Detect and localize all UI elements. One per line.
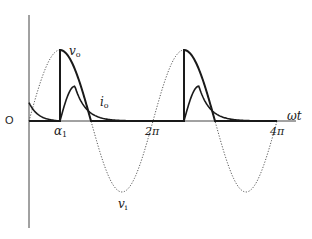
- tick-alpha1-label: α1: [54, 125, 67, 139]
- origin-label: O: [5, 115, 14, 126]
- io-label: io: [100, 96, 109, 110]
- vo-label: vo: [69, 45, 81, 59]
- output-current-curve: [29, 86, 277, 121]
- vi-label: vi: [118, 198, 127, 212]
- output-voltage-curve: [29, 50, 277, 121]
- tick-2pi-label: 2π: [145, 126, 159, 137]
- waveform-diagram: [0, 0, 312, 239]
- x-axis-label: ωt: [287, 110, 302, 122]
- tick-4pi-label: 4π: [270, 126, 284, 137]
